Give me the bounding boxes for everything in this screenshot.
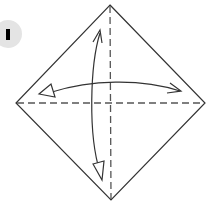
origami-diagram: 1 [0,0,213,213]
fold-diagram-canvas [0,0,213,213]
